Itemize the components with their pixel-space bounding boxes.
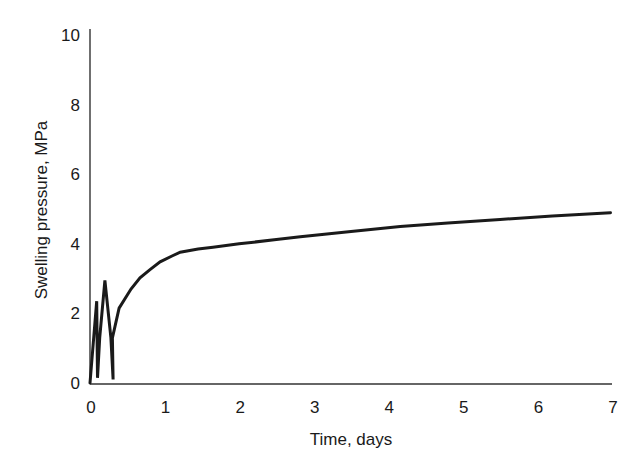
plot-axes bbox=[90, 29, 612, 384]
y-tick-label: 10 bbox=[61, 26, 80, 45]
y-tick-label: 6 bbox=[71, 165, 80, 184]
y-tick-label: 0 bbox=[71, 374, 80, 393]
y-tick-label: 2 bbox=[71, 304, 80, 323]
y-tick-label: 8 bbox=[71, 96, 80, 115]
x-tick-labels: 01234567 bbox=[86, 398, 617, 417]
swelling-pressure-chart: 0246810 01234567 Time, days Swelling pre… bbox=[0, 0, 637, 476]
y-tick-labels: 0246810 bbox=[61, 26, 80, 393]
x-tick-label: 1 bbox=[161, 398, 170, 417]
x-tick-label: 7 bbox=[608, 398, 617, 417]
x-tick-label: 5 bbox=[459, 398, 468, 417]
y-tick-label: 4 bbox=[71, 235, 80, 254]
x-tick-label: 0 bbox=[86, 398, 95, 417]
x-axis-title: Time, days bbox=[310, 430, 393, 449]
x-tick-label: 4 bbox=[385, 398, 394, 417]
x-tick-label: 2 bbox=[235, 398, 244, 417]
swelling-pressure-line bbox=[90, 213, 611, 383]
y-axis-title: Swelling pressure, MPa bbox=[32, 120, 51, 299]
x-tick-label: 6 bbox=[534, 398, 543, 417]
x-tick-label: 3 bbox=[310, 398, 319, 417]
